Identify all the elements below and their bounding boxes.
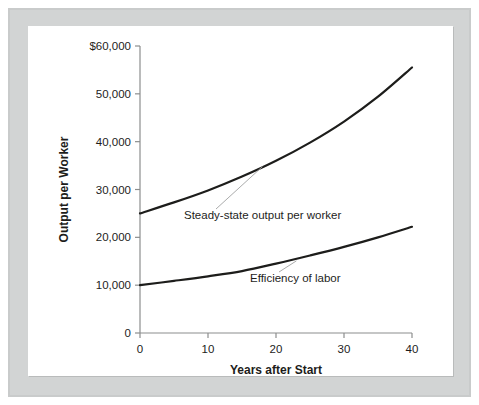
y-axis-tick-label: 20,000 xyxy=(96,231,131,243)
x-axis-tick-label: 30 xyxy=(338,343,351,355)
y-axis-tick-label: 40,000 xyxy=(96,136,131,148)
series-label-steady-state: Steady-state output per worker xyxy=(184,209,341,221)
x-axis-title: Years after Start xyxy=(230,363,322,376)
leader-line-steady-state xyxy=(216,167,262,209)
figure-frame: 010,00020,00030,00040,00050,000$60,000 0… xyxy=(0,0,479,405)
line-chart: 010,00020,00030,00040,00050,000$60,000 0… xyxy=(28,26,453,376)
x-axis-tick-labels: 010203040 xyxy=(137,343,419,355)
x-axis-tick-marks xyxy=(140,333,412,338)
y-axis-tick-label: 30,000 xyxy=(96,184,131,196)
y-axis-tick-label: 50,000 xyxy=(96,88,131,100)
series-label-efficiency: Efficiency of labor xyxy=(250,272,341,284)
y-axis-title: Output per Worker xyxy=(57,136,71,242)
y-axis-tick-label: 0 xyxy=(125,327,131,339)
x-axis-tick-label: 20 xyxy=(270,343,283,355)
y-axis-tick-label: 10,000 xyxy=(96,279,131,291)
x-axis-tick-label: 10 xyxy=(202,343,215,355)
x-axis-tick-label: 0 xyxy=(137,343,143,355)
x-axis-tick-label: 40 xyxy=(406,343,419,355)
y-axis-tick-label: $60,000 xyxy=(89,40,131,52)
curve-steady-state-output-per-worker xyxy=(140,68,412,214)
y-axis-tick-labels: 010,00020,00030,00040,00050,000$60,000 xyxy=(89,40,131,339)
y-axis-tick-marks xyxy=(135,46,140,333)
